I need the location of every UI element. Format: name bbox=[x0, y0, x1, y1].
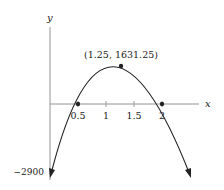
vertex-label: (1.25, 1631.25) bbox=[84, 49, 158, 60]
parabola-chart: y x 0.5 1 1.5 2 −2900 (1.25, 1631.25) bbox=[0, 0, 224, 190]
root-point-0.5 bbox=[76, 102, 80, 106]
vertex-point bbox=[119, 64, 123, 68]
tick-label-1: 1 bbox=[103, 110, 109, 121]
tick-label-1.5: 1.5 bbox=[126, 110, 141, 121]
root-point-2 bbox=[160, 102, 164, 106]
y-intercept-label: −2900 bbox=[14, 167, 45, 177]
x-axis-label: x bbox=[205, 98, 211, 109]
tick-label-2: 2 bbox=[159, 110, 165, 121]
left-arrow-icon bbox=[49, 168, 55, 178]
y-axis-label: y bbox=[46, 12, 53, 23]
tick-label-0.5: 0.5 bbox=[70, 110, 85, 121]
right-arrow-icon bbox=[185, 168, 191, 178]
